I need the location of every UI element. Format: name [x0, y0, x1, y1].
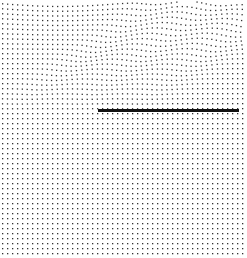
- crack-line: [98, 109, 239, 112]
- deformed-lattice-canvas: [0, 0, 247, 258]
